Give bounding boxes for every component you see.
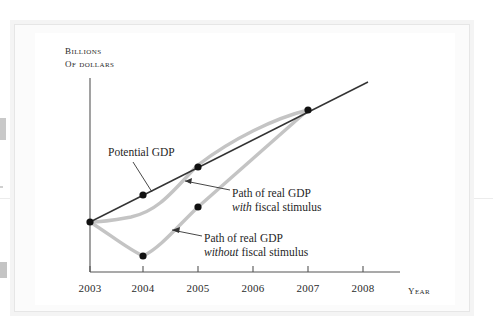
marker-2004-trough bbox=[139, 252, 146, 259]
marker-2004-potential bbox=[139, 191, 146, 198]
line-potential-gdp bbox=[90, 82, 368, 222]
marker-2005-without-stimulus bbox=[194, 203, 201, 210]
curve-real-gdp-without-stimulus bbox=[90, 110, 308, 256]
marker-2007-convergence bbox=[304, 106, 311, 113]
chart-canvas bbox=[0, 0, 493, 336]
marker-2003-start bbox=[86, 218, 93, 225]
leader-line-potential-gdp bbox=[133, 162, 152, 192]
marker-2005-potential bbox=[194, 163, 201, 170]
x-axis-ticks bbox=[90, 266, 363, 272]
scanned-page: Billions of dollars Year 2003 2004 2005 … bbox=[0, 0, 493, 336]
